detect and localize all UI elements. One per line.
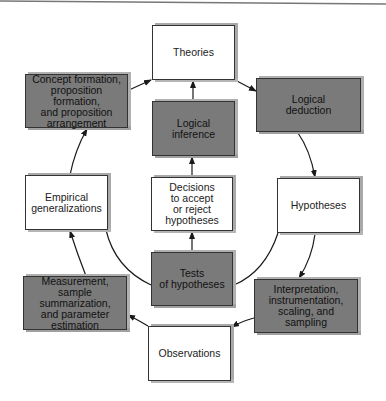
node-label: Measurement, sample summarization, and p… xyxy=(26,276,124,331)
node-decisions: Decisions to accept or reject hypotheses xyxy=(151,177,233,231)
arrow-interpretation-to-observations xyxy=(232,318,254,327)
arrow-hypotheses-to-interpretation xyxy=(299,234,315,278)
node-label: Interpretation, instrumentation, scaling… xyxy=(269,284,344,328)
node-label: Tests of hypotheses xyxy=(159,268,224,290)
node-label: Decisions to accept or reject hypotheses xyxy=(165,182,219,226)
node-measurement: Measurement, sample summarization, and p… xyxy=(23,276,127,330)
node-logical-inference: Logical inference xyxy=(152,101,235,156)
arrow-measurement-to-empirical xyxy=(70,231,86,276)
arrow-observations-to-measurement xyxy=(128,315,148,326)
node-label: Concept formation, proposition formation… xyxy=(28,74,125,129)
node-label: Theories xyxy=(173,47,214,58)
arrow-deduction-to-hypotheses xyxy=(298,133,315,177)
node-hypotheses: Hypotheses xyxy=(277,178,360,233)
arrow-concept-to-theories xyxy=(129,80,151,90)
node-label: Logical deduction xyxy=(286,94,332,116)
node-label: Empirical generalizations xyxy=(31,192,102,214)
arrow-theories-to-deduction xyxy=(235,80,256,91)
node-concept-formation: Concept formation, proposition formation… xyxy=(25,74,128,128)
node-label: Logical inference xyxy=(172,118,215,140)
node-interpretation: Interpretation, instrumentation, scaling… xyxy=(254,279,358,333)
node-label: Observations xyxy=(159,348,221,359)
node-theories: Theories xyxy=(152,25,235,80)
arrow-empirical-to-concept xyxy=(70,129,87,175)
node-empirical-generalizations: Empirical generalizations xyxy=(25,175,108,230)
curve-hypotheses-to-tests xyxy=(234,233,278,285)
node-label: Hypotheses xyxy=(291,200,346,211)
top-rule-line xyxy=(0,1,386,4)
node-logical-deduction: Logical deduction xyxy=(256,78,361,132)
node-observations: Observations xyxy=(148,326,231,381)
node-tests-of-hypotheses: Tests of hypotheses xyxy=(151,252,233,306)
